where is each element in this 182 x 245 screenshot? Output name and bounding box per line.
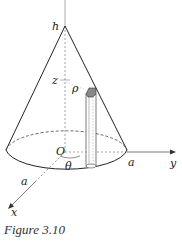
label-h: h xyxy=(52,20,59,33)
label-a-x: a xyxy=(21,175,28,188)
prism-top-shaded xyxy=(86,88,96,97)
prism-element xyxy=(86,94,96,166)
label-theta: θ xyxy=(65,160,72,173)
label-origin: O xyxy=(56,145,65,158)
label-rho: ρ xyxy=(71,82,79,95)
label-x-axis: x xyxy=(11,206,18,219)
prism-bottom xyxy=(86,164,96,168)
label-a-y: a xyxy=(128,156,135,169)
y-axis-arrow xyxy=(170,150,176,155)
cone-base-back xyxy=(6,131,127,150)
figure-caption: Figure 3.10 xyxy=(4,222,65,238)
cone-diagram: h z ρ O θ a a y x xyxy=(0,0,182,245)
label-z: z xyxy=(51,74,58,87)
label-y-axis: y xyxy=(169,157,177,170)
